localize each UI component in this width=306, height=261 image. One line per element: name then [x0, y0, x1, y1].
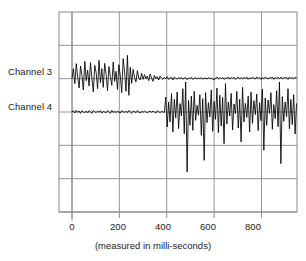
series-label-channel-4: Channel 4	[8, 101, 52, 112]
series-label-channel-3: Channel 3	[8, 66, 52, 77]
signal-traces	[72, 55, 297, 172]
x-tick-label-400: 400	[148, 221, 178, 232]
trace-2	[72, 82, 297, 172]
chart-figure: Channel 3 Channel 4 0 200 400 600 800 (m…	[0, 0, 306, 261]
x-tick-label-0: 0	[57, 221, 87, 232]
x-axis-ticks	[72, 212, 261, 218]
trace-1	[72, 55, 297, 95]
x-tick-label-600: 600	[193, 221, 223, 232]
x-tick-label-800: 800	[238, 221, 268, 232]
x-axis-title: (measured in milli-seconds)	[0, 240, 306, 251]
x-tick-label-200: 200	[103, 221, 133, 232]
